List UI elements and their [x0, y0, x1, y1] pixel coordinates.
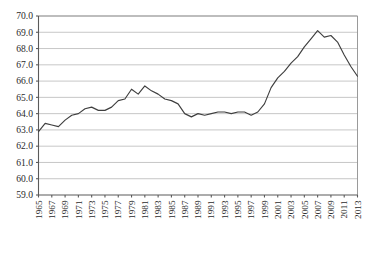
chart-canvas: 70.069.068.067.066.065.064.063.062.061.0… [0, 0, 373, 253]
y-axis-tick-labels: 70.069.068.067.066.065.064.063.062.061.0… [16, 10, 38, 200]
y-axis-tick-label: 62.0 [16, 140, 33, 151]
x-axis-tick-label: 2001 [273, 200, 283, 219]
y-axis-tick-label: 70.0 [16, 10, 33, 21]
x-axis-tick-label: 1987 [180, 200, 190, 219]
x-axis-tick-label: 2007 [313, 200, 323, 219]
x-axis-tick-label: 1975 [100, 200, 110, 219]
x-axis-tick-labels: 1965196719691971197319751977197919811983… [34, 195, 363, 219]
x-axis-tick-label: 2011 [339, 200, 349, 218]
x-axis-tick-label: 1967 [47, 200, 57, 219]
x-axis-tick-label: 2003 [286, 200, 296, 219]
y-axis-tick-label: 59.0 [16, 189, 33, 200]
x-axis-tick-label: 1995 [233, 200, 243, 219]
y-axis-tick-label: 66.0 [16, 75, 33, 86]
chart-plot-area: 70.069.068.067.066.065.064.063.062.061.0… [0, 0, 373, 253]
x-axis-tick-label: 1985 [167, 200, 177, 219]
x-axis-tick-label: 1979 [127, 200, 137, 219]
y-axis-tick-label: 63.0 [16, 124, 33, 135]
y-axis-tick-label: 69.0 [16, 27, 33, 38]
x-axis-tick-label: 1983 [153, 200, 163, 219]
x-axis-tick-label: 1997 [246, 200, 256, 219]
y-axis-tick-label: 67.0 [16, 59, 33, 70]
x-axis-tick-label: 1969 [60, 200, 70, 219]
x-axis-tick-label: 1981 [140, 200, 150, 219]
y-axis-tick-label: 65.0 [16, 92, 33, 103]
plot-frame [39, 16, 358, 195]
y-axis-tick-label: 68.0 [16, 43, 33, 54]
x-axis-tick-label: 1999 [260, 200, 270, 219]
x-axis-tick-label: 2013 [353, 200, 363, 219]
y-axis-tick-label: 60.0 [16, 173, 33, 184]
y-axis-tick-label: 61.0 [16, 157, 33, 168]
x-axis-tick-label: 1971 [74, 200, 84, 219]
x-axis-tick-label: 1991 [206, 200, 216, 219]
x-axis-tick-label: 2009 [326, 200, 336, 219]
x-axis-tick-label: 1973 [87, 200, 97, 219]
x-axis-tick-label: 1989 [193, 200, 203, 219]
x-axis-tick-label: 1965 [34, 200, 44, 219]
x-axis-tick-label: 1977 [113, 200, 123, 219]
y-axis-tick-label: 64.0 [16, 108, 33, 119]
x-axis-tick-label: 1993 [220, 200, 230, 219]
line-chart: 70.069.068.067.066.065.064.063.062.061.0… [0, 0, 373, 253]
x-axis-tick-label: 2005 [300, 200, 310, 219]
